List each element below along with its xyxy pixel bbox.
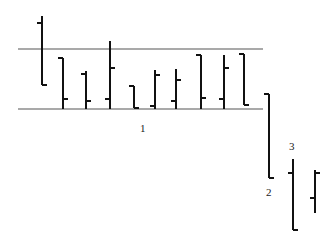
ohlc-bar: [129, 86, 139, 108]
annotation-label-2: 2: [266, 187, 272, 198]
ohlc-bar: [58, 58, 68, 109]
ohlc-bar: [37, 16, 47, 85]
price-bars: [37, 16, 320, 230]
ohlc-bar: [288, 159, 298, 230]
ohlc-bar: [310, 170, 320, 213]
ohlc-bar: [81, 71, 91, 109]
range-lines: [18, 49, 263, 109]
ohlc-bar: [219, 55, 229, 109]
ohlc-bar: [150, 70, 160, 109]
annotation-label-1: 1: [140, 123, 146, 134]
ohlc-bar: [196, 55, 206, 109]
annotation-label-3: 3: [289, 141, 295, 152]
ohlc-bar: [239, 54, 249, 105]
ohlc-bar: [105, 41, 115, 109]
ohlc-bar: [171, 69, 181, 109]
ohlc-bar: [264, 94, 274, 178]
ohlc-chart: [0, 0, 336, 245]
